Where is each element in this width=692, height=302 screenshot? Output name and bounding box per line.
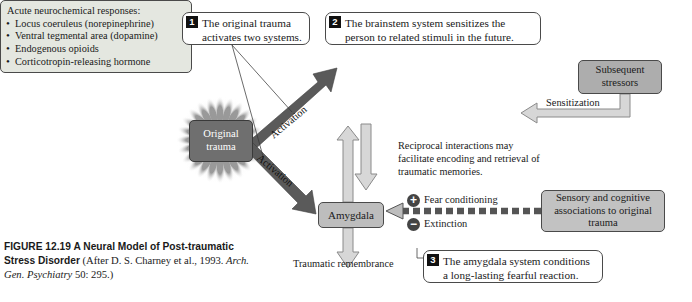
callout-1-text: The original trauma activates two system… xyxy=(202,17,302,43)
figure-number: FIGURE 12.19 xyxy=(4,241,71,252)
node-acute-neurochemical-responses: Acute neurochemical responses: Locus coe… xyxy=(0,0,192,73)
figure-canvas: 1 The original trauma activates two syst… xyxy=(0,0,692,302)
node-original-trauma-group: Original trauma xyxy=(160,96,280,184)
node-original-trauma: Original trauma xyxy=(189,120,253,162)
neurochemical-item: Endogenous opioids xyxy=(6,43,186,56)
figure-caption: FIGURE 12.19 A Neural Model of Post-trau… xyxy=(4,240,262,282)
label-fear-conditioning: Fear conditioning xyxy=(424,194,498,205)
plus-circle-icon: + xyxy=(407,194,420,207)
figure-source-suffix: 50: 295.) xyxy=(75,269,113,280)
node-subsequent-stressors: Subsequent stressors xyxy=(578,60,662,94)
callout-2-text: The brainstem system sensitizes the pers… xyxy=(345,17,514,43)
neurochemical-list: Locus coeruleus (norepinephrine) Ventral… xyxy=(6,18,186,69)
edge-label-traumatic-remembrance: Traumatic remembrance xyxy=(293,258,394,271)
callout-3-number: 3 xyxy=(427,254,439,266)
callout-2: 2 The brainstem system sensitizes the pe… xyxy=(325,12,541,45)
callout-3: 3 The amygdala system conditions a long-… xyxy=(423,250,603,283)
minus-circle-icon: − xyxy=(407,218,420,231)
neurochemical-item: Corticotropin-releasing hormone xyxy=(6,56,186,69)
callout-3-text: The amygdala system conditions a long-la… xyxy=(443,255,590,281)
figure-source-prefix: (After D. S. Charney et al., 1993. xyxy=(83,255,224,266)
edge-label-sensitization: Sensitization xyxy=(546,97,600,110)
callout-2-number: 2 xyxy=(329,16,341,28)
node-amygdala: Amygdala xyxy=(318,202,384,228)
neurochemical-heading: Acute neurochemical responses: xyxy=(6,5,186,18)
label-extinction: Extinction xyxy=(424,218,467,229)
callout-1: 1 The original trauma activates two syst… xyxy=(182,12,310,45)
edge-label-reciprocal-interactions: Reciprocal interactions may facilitate e… xyxy=(398,140,548,178)
neurochemical-item: Ventral tegmental area (dopamine) xyxy=(6,30,186,43)
node-sensory-cognitive-associations: Sensory and cognitive associations to or… xyxy=(541,190,665,232)
neurochemical-item: Locus coeruleus (norepinephrine) xyxy=(6,18,186,31)
callout-1-number: 1 xyxy=(186,16,198,28)
